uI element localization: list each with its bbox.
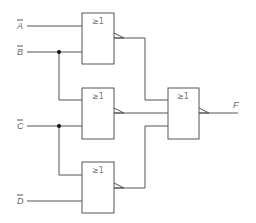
input-label-d: D xyxy=(17,196,24,206)
junction-b xyxy=(57,50,61,54)
gate-4-negation-icon xyxy=(199,108,209,113)
wire-g1-to-g4 xyxy=(114,38,168,100)
wire-c-to-g3 xyxy=(59,126,82,175)
logic-circuit-diagram: A B C D ≥1 ≥1 ≥1 ≥1 F xyxy=(0,0,256,223)
gate-4-symbol: ≥1 xyxy=(177,92,189,101)
gate-2-negation-icon xyxy=(114,108,124,113)
wire-b-to-g2 xyxy=(59,52,82,100)
gate-1-negation-icon xyxy=(114,33,124,38)
output-label-f: F xyxy=(233,100,239,110)
input-label-b: B xyxy=(17,47,23,57)
wire-g3-to-g4 xyxy=(114,126,168,188)
gate-2-symbol: ≥1 xyxy=(92,92,104,101)
input-label-c: C xyxy=(17,121,24,131)
junction-c xyxy=(57,124,61,128)
gate-1-symbol: ≥1 xyxy=(92,17,104,26)
gate-3-negation-icon xyxy=(114,183,124,188)
gate-3-symbol: ≥1 xyxy=(92,166,104,175)
input-label-a: A xyxy=(16,21,23,31)
